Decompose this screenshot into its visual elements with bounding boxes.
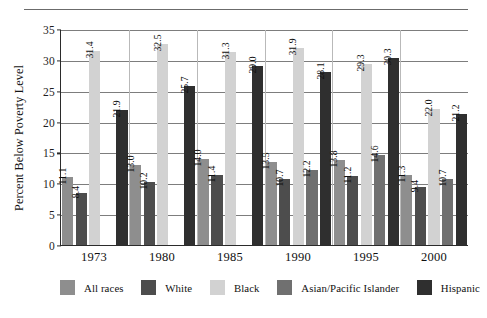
bar-value-label: 30.3 [382, 48, 393, 65]
y-tick-mark [57, 245, 61, 246]
bar-slot: 31.9 [292, 30, 306, 245]
y-tick-label: 20 [43, 117, 55, 129]
legend-item-white[interactable]: White [141, 280, 192, 295]
top-divider-rule [24, 9, 468, 10]
bar-value-label: 29.3 [355, 55, 366, 72]
bar-group-1990: 13.510.731.912.228.1 [264, 30, 332, 245]
bar-value-label: 31.4 [84, 42, 95, 59]
bar-asian-pacific-islander-1990: 12.2 [306, 170, 317, 245]
bar-group-1985: 14.011.431.329.0 [197, 30, 265, 245]
bar-value-label: 8.4 [70, 186, 81, 198]
legend-item-asian-pacific-islander[interactable]: Asian/Pacific Islander [277, 280, 399, 295]
x-axis-labels: 197319801985199019952000 [60, 250, 468, 265]
bar-value-label: 32.5 [152, 35, 163, 52]
bar-black-1990: 31.9 [293, 48, 304, 245]
bar-slot: 21.9 [115, 30, 129, 245]
bar-slot: 30.3 [387, 30, 401, 245]
legend-swatch [141, 280, 156, 295]
bar-slot: 31.3 [224, 30, 238, 245]
x-tick-label-1995: 1995 [332, 250, 400, 265]
bar-value-label: 21.2 [450, 105, 461, 122]
x-tick-label-1973: 1973 [60, 250, 128, 265]
bar-white-1980: 10.2 [144, 182, 155, 245]
legend-item-all-races[interactable]: All races [60, 280, 124, 295]
bar-hispanic-2000: 21.2 [456, 114, 467, 245]
bar-value-label: 11.1 [57, 167, 68, 184]
bar-value-label: 21.9 [111, 100, 122, 117]
legend-label: Hispanic [441, 282, 480, 294]
bar-groups: 11.18.431.421.913.010.232.525.714.011.43… [61, 30, 468, 245]
bar-hispanic-1973: 21.9 [116, 110, 127, 245]
bar-slot: 25.7 [183, 30, 197, 245]
y-tick-label: 5 [49, 209, 55, 221]
bar-value-label: 10.2 [138, 172, 149, 189]
bar-slot: 13.0 [129, 30, 143, 245]
bar-hispanic-1995: 30.3 [388, 58, 399, 245]
bar-value-label: 11.2 [342, 166, 353, 183]
bar-value-label: 22.0 [423, 100, 434, 117]
y-tick-label: 15 [43, 147, 55, 159]
bar-slot: 10.2 [142, 30, 156, 245]
bar-slot: 13.5 [264, 30, 278, 245]
y-tick-label: 0 [49, 240, 55, 252]
bar-asian-pacific-islander-1995: 14.6 [374, 155, 385, 245]
bar-slot: 31.4 [88, 30, 102, 245]
bar-slot: 11.1 [61, 30, 75, 245]
legend-swatch [60, 280, 75, 295]
legend-label: Black [234, 282, 260, 294]
legend-label: Asian/Pacific Islander [301, 282, 399, 294]
x-tick-label-2000: 2000 [400, 250, 468, 265]
bar-white-2000: 9.4 [415, 187, 426, 245]
legend-item-hispanic[interactable]: Hispanic [417, 280, 480, 295]
legend-label: All races [84, 282, 124, 294]
bar-asian-pacific-islander-2000: 10.7 [442, 179, 453, 245]
bar-group-1980: 13.010.232.525.7 [129, 30, 197, 245]
bar-white-1995: 11.2 [347, 176, 358, 245]
bar-value-label: 31.3 [220, 42, 231, 59]
bar-value-label: 11.4 [206, 165, 217, 182]
bar-slot: 29.3 [359, 30, 373, 245]
bar-value-label: 11.3 [396, 166, 407, 183]
bar-slot: 10.7 [278, 30, 292, 245]
bar-white-1985: 11.4 [211, 175, 222, 245]
bar-value-label: 14.6 [369, 145, 380, 162]
bar-slot: 9.4 [414, 30, 428, 245]
bar-slot: 8.4 [75, 30, 89, 245]
bar-value-label: 12.2 [301, 160, 312, 177]
y-axis-title: Percent Below Poverty Level [12, 30, 30, 246]
bar-group-1995: 13.811.229.314.630.3 [332, 30, 400, 245]
poverty-bar-chart-figure: Percent Below Poverty Level 051015202530… [0, 0, 487, 318]
bar-value-label: 9.4 [409, 180, 420, 192]
legend-item-black[interactable]: Black [210, 280, 260, 295]
bar-slot: 29.0 [251, 30, 265, 245]
bar-slot: 11.4 [210, 30, 224, 245]
bar-slot: 11.3 [400, 30, 414, 245]
legend-label: White [165, 282, 192, 294]
x-tick-label-1980: 1980 [128, 250, 196, 265]
bar-slot [170, 30, 184, 245]
chart-legend: All racesWhiteBlackAsian/Pacific Islande… [60, 280, 480, 295]
y-tick-label: 30 [43, 55, 55, 67]
bar-white-1990: 10.7 [279, 179, 290, 245]
bar-slot: 22.0 [427, 30, 441, 245]
bar-value-label: 29.0 [247, 56, 258, 73]
bar-slot: 21.2 [454, 30, 468, 245]
bar-slot: 14.0 [197, 30, 211, 245]
bar-value-label: 14.0 [192, 149, 203, 166]
bar-value-label: 13.8 [328, 150, 339, 167]
bar-white-1973: 8.4 [76, 193, 87, 245]
x-tick-label-1990: 1990 [264, 250, 332, 265]
x-tick-label-1985: 1985 [196, 250, 264, 265]
bar-value-label: 25.7 [179, 77, 190, 94]
y-tick-label: 25 [43, 86, 55, 98]
legend-swatch [277, 280, 292, 295]
bar-value-label: 31.9 [287, 39, 298, 56]
bar-group-2000: 11.39.422.010.721.2 [400, 30, 468, 245]
bar-value-label: 28.1 [315, 62, 326, 79]
bar-slot: 32.5 [156, 30, 170, 245]
bar-value-label: 13.5 [260, 152, 271, 169]
legend-swatch [210, 280, 225, 295]
bar-value-label: 10.7 [274, 169, 285, 186]
bar-black-1985: 31.3 [225, 52, 236, 245]
y-tick-label: 10 [43, 178, 55, 190]
